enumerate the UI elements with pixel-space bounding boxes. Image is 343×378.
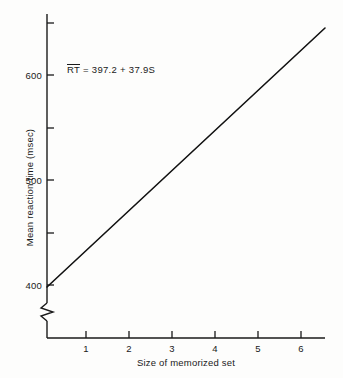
x-tick-label-3: 3	[162, 343, 182, 354]
equation-mean-symbol: RT	[67, 64, 80, 76]
x-tick-label-4: 4	[205, 343, 225, 354]
chart-figure: 400 500 600 1 2 3 4 5 6 Mean reaction ti…	[0, 0, 343, 378]
y-axis-break-symbol	[41, 303, 53, 321]
x-tick-label-6: 6	[291, 343, 311, 354]
equation-body: = 397.2 + 37.9S	[80, 64, 155, 75]
x-tick-label-5: 5	[248, 343, 268, 354]
x-axis-title: Size of memorized set	[47, 357, 325, 368]
y-axis-title: Mean reaction time (msec)	[24, 93, 35, 283]
y-tick-label-600: 600	[12, 70, 42, 81]
x-tick-label-1: 1	[76, 343, 96, 354]
x-tick-label-2: 2	[119, 343, 139, 354]
plot-area	[0, 0, 343, 378]
regression-equation-annotation: RT = 397.2 + 37.9S	[67, 64, 155, 76]
